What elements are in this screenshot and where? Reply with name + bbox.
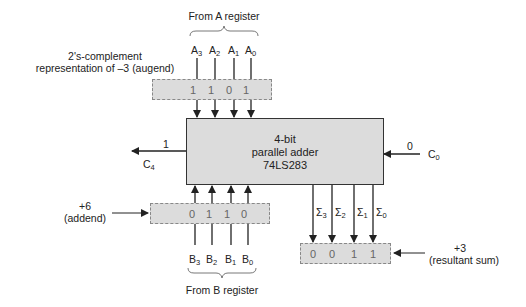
output-s1: Σ1: [357, 206, 368, 222]
augend-description-line2: representation of –3 (augend): [22, 62, 188, 74]
input-b2-sub: 2: [213, 258, 217, 267]
parallel-adder-block: 4-bit parallel adder 74LS283: [186, 118, 384, 185]
carry-in-value: 0: [407, 140, 413, 152]
input-b0: B0: [242, 253, 253, 269]
augend-description-line1: 2's-complement: [30, 50, 180, 62]
addend-bit-2: 1: [206, 208, 212, 220]
input-b3: B3: [189, 253, 200, 269]
augend-bit-1: 0: [226, 84, 232, 96]
input-a0-sub: 0: [252, 49, 256, 58]
a-register-brace: [190, 26, 258, 36]
input-b1-sub: 1: [232, 258, 236, 267]
input-b3-sub: 3: [196, 258, 200, 267]
sum-bit-0: 1: [370, 248, 376, 260]
addend-register-box: 0 1 1 0: [150, 203, 270, 224]
input-a2-sub: 2: [216, 49, 220, 58]
input-b0-name: B: [242, 253, 249, 265]
sum-bit-3: 0: [310, 248, 316, 260]
input-b1-name: B: [225, 253, 232, 265]
input-b2: B2: [206, 253, 217, 269]
augend-bit-3: 1: [190, 84, 196, 96]
output-s2: Σ2: [335, 206, 346, 222]
input-a1-sub: 1: [235, 49, 239, 58]
b-register-brace: [188, 268, 256, 278]
addend-bit-0: 0: [241, 208, 247, 220]
input-b1: B1: [225, 253, 236, 269]
input-a2: A2: [209, 44, 220, 60]
output-s0: Σ0: [376, 206, 387, 222]
sum-bit-1: 1: [351, 248, 357, 260]
input-a0: A0: [245, 44, 256, 60]
input-a3: A3: [191, 44, 202, 60]
input-a2-name: A: [209, 44, 216, 56]
augend-register-box: 1 1 0 1: [152, 79, 272, 100]
addend-bit-1: 1: [224, 208, 230, 220]
addend-description-line1: +6: [60, 200, 110, 212]
adder-subtitle: parallel adder: [187, 146, 383, 159]
input-a3-name: A: [191, 44, 198, 56]
sum-description-line2: (resultant sum): [424, 254, 504, 266]
carry-out-name: C: [143, 158, 151, 170]
output-s3: Σ3: [316, 206, 327, 222]
output-s2-sub: 2: [342, 211, 346, 220]
input-b3-name: B: [189, 253, 196, 265]
output-s1-sub: 1: [364, 211, 368, 220]
b-register-label: From B register: [182, 284, 262, 296]
output-s3-sub: 3: [323, 211, 327, 220]
input-a3-sub: 3: [198, 49, 202, 58]
a-register-label: From A register: [184, 10, 264, 22]
augend-bit-2: 1: [208, 84, 214, 96]
adder-part-number: 74LS283: [187, 159, 383, 172]
sum-description-line1: +3: [440, 242, 480, 254]
carry-out-value: 1: [163, 138, 169, 150]
input-b2-name: B: [206, 253, 213, 265]
input-a0-name: A: [245, 44, 252, 56]
sum-register-box: 0 0 1 1: [300, 243, 391, 264]
output-s0-sub: 0: [383, 211, 387, 220]
carry-in-sub: 0: [436, 153, 440, 162]
addend-bit-3: 0: [189, 208, 195, 220]
adder-title: 4-bit: [187, 133, 383, 146]
carry-out-sub: 4: [151, 163, 155, 172]
carry-in-name: C: [428, 148, 436, 160]
input-a1: A1: [228, 44, 239, 60]
input-b0-sub: 0: [249, 258, 253, 267]
addend-description-line2: (addend): [55, 212, 115, 224]
carry-in-label: C0: [428, 148, 440, 164]
carry-out-label: C4: [143, 158, 155, 174]
input-a1-name: A: [228, 44, 235, 56]
sum-bit-2: 0: [329, 248, 335, 260]
augend-bit-0: 1: [243, 84, 249, 96]
